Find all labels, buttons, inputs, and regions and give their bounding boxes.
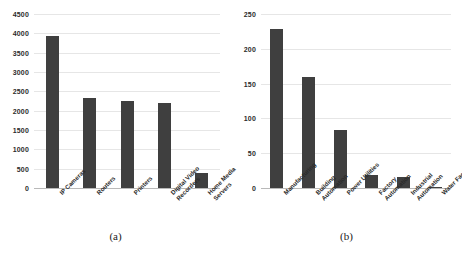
gridline — [34, 91, 220, 92]
bar — [121, 101, 134, 188]
bar — [46, 36, 59, 188]
y-axis-tick-label: 0 — [0, 185, 29, 192]
gridline — [261, 49, 451, 50]
bar — [270, 29, 283, 188]
y-axis-tick-label: 3000 — [0, 69, 29, 76]
gridline — [261, 84, 451, 85]
x-axis-label-text: Home Media Servers — [206, 191, 217, 202]
y-axis-tick-label: 4000 — [0, 30, 29, 37]
chart-panel-b: 050100150200250 ManufacturingBuilding Au… — [231, 0, 462, 256]
y-axis-tick-label: 2000 — [0, 107, 29, 114]
bar — [83, 98, 96, 188]
x-axis-label-text: Industrial Automation — [409, 191, 420, 202]
gridline — [261, 153, 451, 154]
y-axis-tick-label: 2500 — [0, 88, 29, 95]
y-axis-tick-label: 100 — [231, 115, 256, 122]
y-axis-tick-label: 1000 — [0, 146, 29, 153]
y-axis-tick-label: 250 — [231, 11, 256, 18]
y-axis-tick-label: 150 — [231, 80, 256, 87]
y-axis-tick-label: 4500 — [0, 11, 29, 18]
x-axis-label-text: IP Cameras — [58, 191, 63, 196]
x-axis-label-text: Routers — [95, 191, 100, 196]
gridline — [34, 33, 220, 34]
panel-caption-a: (a) — [0, 230, 231, 242]
x-axis-label-text: Power Utilities — [345, 191, 350, 196]
gridline — [34, 14, 220, 15]
y-axis-tick-label: 3500 — [0, 49, 29, 56]
x-axis-label-text: Building Automation — [314, 191, 325, 202]
panel-caption-b: (b) — [231, 230, 462, 242]
gridline — [34, 53, 220, 54]
chart-panel-a: 050010001500200025003000350040004500 IP … — [0, 0, 231, 256]
y-axis-tick-label: 50 — [231, 150, 256, 157]
x-axis-label-text: Manufacturing — [282, 191, 287, 196]
plot-area-a — [34, 14, 220, 188]
x-axis-label-text: Digital Video Recorders — [169, 191, 180, 202]
x-axis-label-text: Printers — [132, 191, 137, 196]
plot-area-b — [261, 14, 451, 188]
y-axis-tick-label: 500 — [0, 165, 29, 172]
bar — [158, 103, 171, 188]
gridline — [261, 118, 451, 119]
figure-root: 050010001500200025003000350040004500 IP … — [0, 0, 462, 256]
gridline — [34, 72, 220, 73]
y-axis-tick-label: 200 — [231, 45, 256, 52]
y-axis-tick-label: 0 — [231, 185, 256, 192]
y-axis-tick-label: 1500 — [0, 127, 29, 134]
gridline — [261, 14, 451, 15]
x-axis-label-text: Water Facilities — [440, 191, 445, 196]
x-axis-label-text: Factory Automation — [377, 191, 388, 202]
